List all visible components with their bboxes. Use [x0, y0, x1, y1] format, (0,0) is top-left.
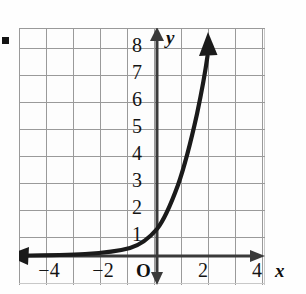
curve-arrowhead-up: [199, 32, 218, 56]
x-tick-label-2: 2: [192, 259, 214, 282]
y-tick-label-6: 6: [127, 88, 147, 111]
problem-bullet-marker: [2, 37, 9, 44]
y-axis-label: y: [166, 27, 174, 49]
exponential-curve: [19, 56, 208, 256]
x-axis-label: x: [275, 260, 285, 282]
y-tick-label-3: 3: [127, 169, 147, 192]
y-tick-label-5: 5: [127, 115, 147, 138]
figure-root: 8 7 6 5 4 3 2 1 −4 −2 2 4 O x y: [0, 0, 306, 294]
origin-label: O: [136, 260, 151, 282]
y-tick-label-1: 1: [127, 223, 147, 246]
y-tick-label-2: 2: [127, 196, 147, 219]
y-tick-label-4: 4: [127, 142, 147, 165]
y-axis-arrowhead-up: [150, 28, 164, 41]
y-tick-label-8: 8: [127, 34, 147, 57]
x-tick-label-neg2: −2: [84, 259, 122, 282]
y-tick-label-7: 7: [127, 61, 147, 84]
curve-arrowhead-left: [19, 247, 29, 265]
x-tick-label-neg4: −4: [30, 259, 68, 282]
x-tick-label-4: 4: [246, 259, 268, 282]
